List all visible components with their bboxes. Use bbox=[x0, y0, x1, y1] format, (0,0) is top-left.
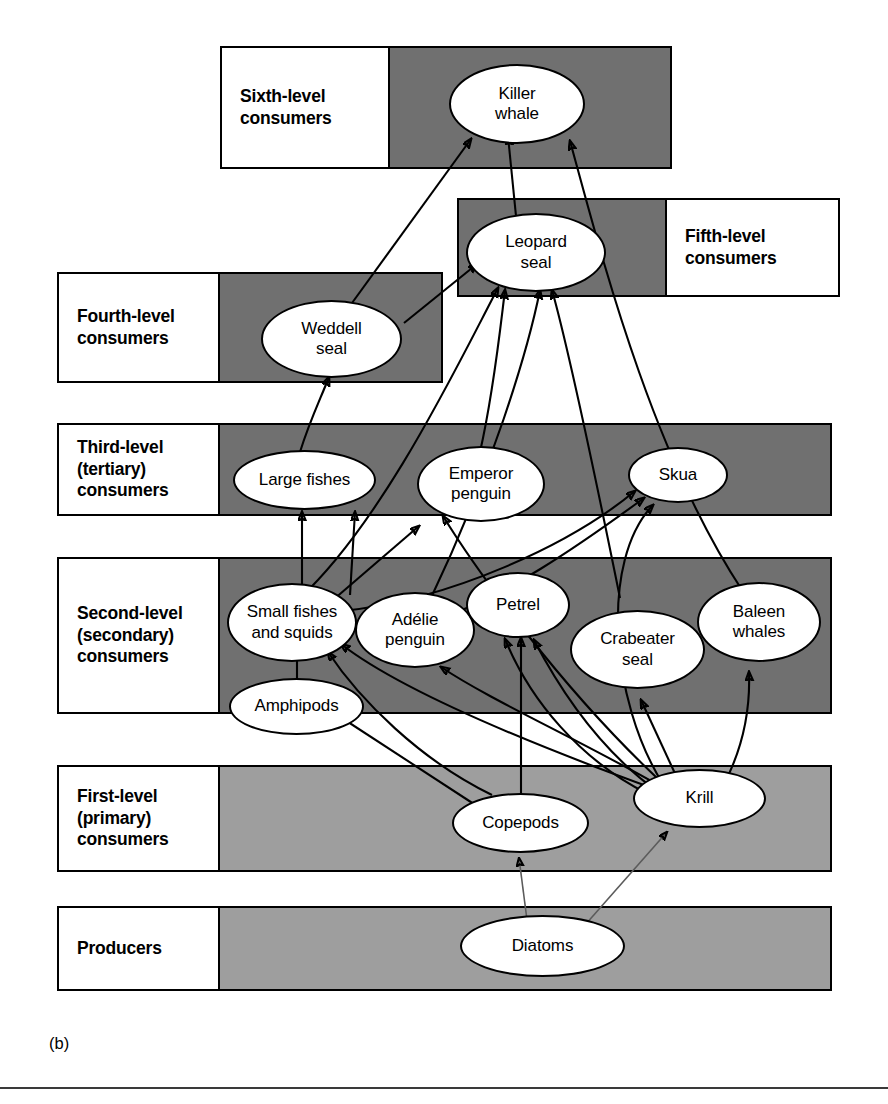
node-label: Diatoms bbox=[512, 936, 574, 956]
node-crabeater-seal[interactable]: Crabeater seal bbox=[570, 610, 705, 689]
node-leopard-seal[interactable]: Leopard seal bbox=[466, 213, 606, 292]
node-label: Krill bbox=[686, 788, 714, 808]
node-label: Killer whale bbox=[495, 84, 539, 124]
node-label: Emperor penguin bbox=[449, 464, 514, 504]
node-diatoms[interactable]: Diatoms bbox=[460, 915, 625, 977]
node-baleen-whales[interactable]: Baleen whales bbox=[697, 582, 821, 662]
node-label: Crabeater seal bbox=[600, 629, 675, 669]
node-label: Leopard seal bbox=[505, 232, 567, 272]
node-large-fishes[interactable]: Large fishes bbox=[233, 450, 376, 510]
node-label: Weddell seal bbox=[301, 319, 361, 359]
band-label-fourth-level: Fourth-level consumers bbox=[57, 272, 220, 383]
band-label-text: Fifth-level consumers bbox=[685, 226, 777, 269]
band-label-fifth-level: Fifth-level consumers bbox=[665, 198, 840, 297]
node-label: Petrel bbox=[496, 595, 540, 615]
node-label: Skua bbox=[659, 465, 697, 485]
node-emperor-penguin[interactable]: Emperor penguin bbox=[417, 446, 545, 522]
band-label-text: Third-level (tertiary) consumers bbox=[77, 437, 169, 501]
band-label-third-level: Third-level (tertiary) consumers bbox=[57, 423, 220, 516]
node-label: Amphipods bbox=[254, 696, 338, 716]
band-label-text: Producers bbox=[77, 938, 162, 959]
band-label-first-level: First-level (primary) consumers bbox=[57, 765, 220, 872]
band-label-sixth-level: Sixth-level consumers bbox=[220, 46, 390, 169]
figure-caption: (b) bbox=[49, 1034, 69, 1053]
node-adelie-penguin[interactable]: Adélie penguin bbox=[355, 592, 475, 668]
node-label: Large fishes bbox=[259, 470, 350, 490]
node-krill[interactable]: Krill bbox=[633, 769, 766, 828]
node-label: Copepods bbox=[482, 813, 559, 833]
node-killer-whale[interactable]: Killer whale bbox=[449, 64, 585, 144]
band-label-text: Second-level (secondary) consumers bbox=[77, 603, 183, 667]
band-label-text: Sixth-level consumers bbox=[240, 86, 332, 129]
band-label-second-level: Second-level (secondary) consumers bbox=[57, 557, 220, 714]
food-web-figure: Sixth-level consumers Fifth-level consum… bbox=[0, 0, 888, 1104]
node-small-fishes-and-squids[interactable]: Small fishes and squids bbox=[227, 583, 357, 662]
node-amphipods[interactable]: Amphipods bbox=[229, 678, 364, 735]
band-label-text: First-level (primary) consumers bbox=[77, 786, 169, 850]
node-label: Small fishes and squids bbox=[247, 602, 337, 642]
node-label: Baleen whales bbox=[733, 602, 785, 642]
node-petrel[interactable]: Petrel bbox=[466, 572, 570, 638]
bottom-divider bbox=[0, 1087, 888, 1089]
node-skua[interactable]: Skua bbox=[628, 447, 728, 503]
band-label-producers: Producers bbox=[57, 906, 220, 991]
node-weddell-seal[interactable]: Weddell seal bbox=[261, 300, 402, 378]
node-copepods[interactable]: Copepods bbox=[452, 793, 589, 853]
band-label-text: Fourth-level consumers bbox=[77, 306, 175, 349]
node-label: Adélie penguin bbox=[385, 610, 445, 650]
